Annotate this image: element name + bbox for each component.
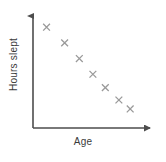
data-point-marker bbox=[102, 84, 109, 91]
data-point-marker bbox=[43, 24, 50, 31]
data-point-marker bbox=[115, 97, 122, 104]
data-point-marker bbox=[89, 71, 96, 78]
y-axis-label-container: Hours slept bbox=[0, 0, 26, 128]
scatter-chart: Hours slept Age bbox=[0, 0, 166, 162]
y-axis-label: Hours slept bbox=[8, 38, 19, 91]
data-point-marker bbox=[76, 55, 83, 62]
data-point-marker bbox=[127, 106, 134, 113]
x-axis-label: Age bbox=[0, 136, 166, 147]
data-point-marker bbox=[61, 39, 68, 46]
data-point-group bbox=[43, 24, 133, 113]
